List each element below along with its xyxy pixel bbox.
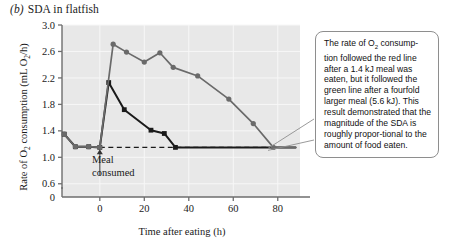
y-axis-tick-label: 0 [50, 192, 55, 203]
x-axis-tick-label: 60 [228, 203, 239, 214]
data-point-marker [73, 144, 78, 149]
data-point-marker [195, 73, 200, 78]
callout-text-rest: tion followed the red line after a 1.4 k… [324, 53, 431, 150]
callout-annotation-box: The rate of O2 consump- tion followed th… [315, 31, 439, 158]
y-axis-tick-label: 2.6 [42, 46, 55, 57]
data-point-marker [171, 65, 176, 70]
x-axis-tick-label: 40 [184, 203, 195, 214]
x-axis-tick-label: 20 [139, 203, 150, 214]
data-point-marker [173, 145, 178, 150]
figure-root: (b)SDA in flatfish Rate of O2 consumptio… [0, 0, 452, 249]
data-point-marker [86, 144, 91, 149]
callout-text-part2: consump- [378, 38, 418, 48]
data-point-marker [122, 107, 127, 112]
callout-text-part1: The rate of O [324, 38, 375, 48]
data-point-marker [124, 50, 129, 55]
data-point-marker [111, 42, 116, 47]
data-point-marker [62, 132, 67, 137]
meal-label-line1: Meal [92, 153, 135, 166]
y-axis: 00.61.01.41.82.22.63.0 [42, 20, 62, 203]
y-axis-tick-label: 3.0 [42, 20, 55, 31]
data-point-marker [226, 96, 231, 101]
x-axis-tick-label: 0 [97, 203, 102, 214]
y-axis-tick-label: 0.6 [42, 178, 55, 189]
data-point-marker [97, 145, 102, 150]
y-axis-tick-label: 1.8 [42, 99, 55, 110]
x-axis: 020406080 [62, 197, 310, 214]
data-point-marker [157, 50, 162, 55]
y-axis-tick-label: 1.4 [42, 125, 56, 136]
data-point-marker [142, 59, 147, 64]
data-point-marker [149, 128, 154, 133]
data-point-marker [251, 121, 256, 126]
data-point-marker [162, 131, 167, 136]
meal-label-line2: consumed [92, 166, 135, 179]
meal-marker-label: Meal consumed [92, 153, 135, 179]
y-axis-tick-label: 1.0 [42, 152, 55, 163]
x-axis-tick-label: 80 [273, 203, 284, 214]
y-axis-tick-label: 2.2 [42, 73, 55, 84]
